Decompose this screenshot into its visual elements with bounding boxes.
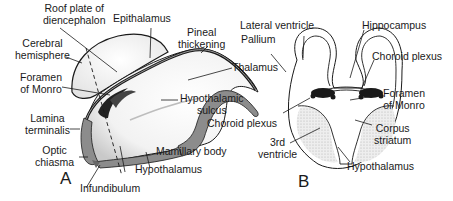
label-third-line2: ventricle [258,149,297,161]
label-lateral-ventricle: Lateral ventricle [240,20,314,32]
label-optic-chiasma: Optic chiasma [35,145,74,168]
label-cerebral-hemisphere: Cerebral hemisphere [15,38,70,61]
label-foramen-of-monro-b: Foramen of Monro [383,88,425,111]
panel-label-b: B [298,173,309,190]
label-pallium: Pallium [241,34,275,46]
label-foramen-b-line1: Foramen [383,88,425,100]
label-corpus-striatum: Corpus striatum [374,123,411,146]
label-infundibulum: Infundibulum [80,183,140,195]
label-mamillary-body: Mamillary body [156,146,227,158]
label-lamina-line2: terminalis [25,125,70,137]
label-cerebral-line2: hemisphere [15,50,70,62]
panel-label-a: A [60,170,71,187]
label-roof-plate-line1: Roof plate of [43,3,105,15]
label-foramen-b-line2: of Monro [383,100,425,112]
label-thalamus: Thalamus [232,62,278,74]
label-foramen-a-line1: Foramen [20,72,62,84]
label-choroid-plexus-left: Choroid plexus [207,118,277,130]
label-hypothalamic-sulcus: Hypothalamic sulcus [180,93,244,116]
label-corpus-line2: striatum [374,135,411,147]
label-sulcus-line2: sulcus [180,105,244,117]
label-hypothalamus-a: Hypothalamus [135,164,202,176]
label-third-ventricle: 3rd ventricle [258,137,297,160]
label-roof-plate: Roof plate of diencephalon [43,3,105,26]
label-optic-line1: Optic [35,145,74,157]
label-pineal-line1: Pineal [178,27,225,39]
label-sulcus-line1: Hypothalamic [180,93,244,105]
label-roof-plate-line2: diencephalon [43,15,105,27]
label-corpus-line1: Corpus [374,123,411,135]
label-lamina-terminalis: Lamina terminalis [25,113,70,136]
label-pineal-line2: thickening [178,39,225,51]
label-pineal-thickening: Pineal thickening [178,27,225,50]
label-optic-line2: chiasma [35,157,74,169]
label-foramen-of-monro-a: Foramen of Monro [20,72,62,95]
label-foramen-a-line2: of Monro [20,84,62,96]
label-epithalamus: Epithalamus [113,13,171,25]
label-hypothalamus-b: Hypothalamus [347,161,414,173]
label-cerebral-line1: Cerebral [15,38,70,50]
label-third-line1: 3rd [258,137,297,149]
diencephalon-figure: Roof plate of diencephalon Epithalamus P… [0,0,453,201]
label-lamina-line1: Lamina [25,113,70,125]
label-hippocampus: Hippocampus [362,20,426,32]
label-choroid-plexus-right: Choroid plexus [372,51,442,63]
